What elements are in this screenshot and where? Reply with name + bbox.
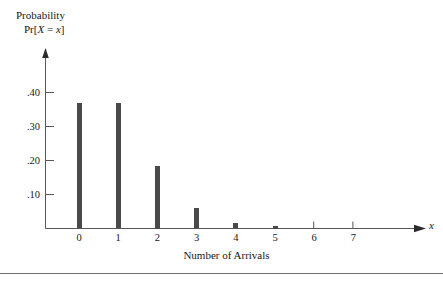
x-tick-label: 2	[147, 232, 167, 244]
x-tick-label: 7	[343, 232, 363, 244]
bottom-divider	[0, 273, 443, 274]
y-tick-label: .10	[14, 190, 40, 201]
bar	[116, 103, 121, 228]
poisson-pmf-figure: Probability Pr[X = x] .40.30.20.10 01234…	[0, 0, 443, 281]
axes-svg	[0, 0, 443, 281]
bar	[155, 166, 160, 229]
x-tick-label: 0	[69, 232, 89, 244]
bar	[233, 223, 238, 228]
x-tick-label: 5	[265, 232, 285, 244]
tick-marks-group	[46, 93, 353, 229]
x-tick-label: 4	[226, 232, 246, 244]
x-axis-arrow-icon	[414, 225, 426, 232]
y-axis-arrow-icon	[42, 48, 49, 58]
x-axis-title-text: Number of Arrivals	[173, 249, 269, 261]
y-tick-label: .20	[14, 156, 40, 167]
y-tick-label: .30	[14, 122, 40, 133]
bar	[194, 208, 199, 229]
y-tick-label: .40	[14, 88, 40, 99]
x-axis-title: Number of Arrivals	[0, 249, 443, 261]
x-tick-label: 1	[108, 232, 128, 244]
x-tick-label: 3	[187, 232, 207, 244]
x-tick-label: 6	[304, 232, 324, 244]
bar	[77, 103, 82, 228]
x-axis-variable-label: x	[429, 219, 434, 231]
bar	[273, 226, 278, 229]
